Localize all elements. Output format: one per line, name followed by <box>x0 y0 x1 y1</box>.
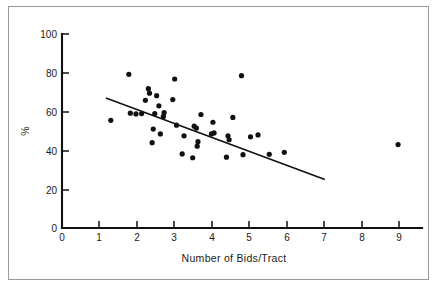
y-axis-tick-labels: 100 80 60 40 20 0 <box>40 29 57 234</box>
data-point <box>195 139 200 144</box>
scatter-plot: 100 80 60 40 20 0 % <box>9 7 428 279</box>
data-point <box>190 155 195 160</box>
y-axis-title: % <box>19 126 31 136</box>
data-point <box>126 72 131 77</box>
data-point-series <box>108 72 400 161</box>
x-axis-title: Number of Bids/Tract <box>182 252 287 264</box>
data-point <box>156 103 161 108</box>
figure-frame: 100 80 60 40 20 0 % <box>8 6 429 280</box>
data-point <box>158 131 163 136</box>
figure-container: 100 80 60 40 20 0 % <box>0 0 439 296</box>
x-tick-label: 6 <box>284 232 290 243</box>
data-point <box>267 152 272 157</box>
data-point <box>172 76 177 81</box>
data-point <box>150 140 155 145</box>
data-point <box>239 73 244 78</box>
trend-line <box>106 98 325 179</box>
y-tick-label: 20 <box>46 185 58 196</box>
data-point <box>248 134 253 139</box>
x-tick-label: 0 <box>59 232 65 243</box>
data-point <box>108 118 113 123</box>
y-tick-label: 80 <box>46 68 58 79</box>
y-tick-label: 0 <box>51 223 57 234</box>
data-point <box>210 120 215 125</box>
data-point <box>143 98 148 103</box>
data-point <box>133 111 138 116</box>
data-point <box>151 126 156 131</box>
y-tick-label: 40 <box>46 146 58 157</box>
data-point <box>181 133 186 138</box>
data-point <box>195 144 200 149</box>
x-tick-label: 9 <box>396 232 402 243</box>
data-point <box>230 115 235 120</box>
data-point <box>162 110 167 115</box>
data-point <box>198 112 203 117</box>
data-point <box>224 155 229 160</box>
data-point <box>227 137 232 142</box>
x-tick-label: 1 <box>96 232 102 243</box>
data-point <box>180 151 185 156</box>
data-point <box>147 91 152 96</box>
x-tick-label: 5 <box>246 232 252 243</box>
data-point <box>211 130 216 135</box>
data-point <box>128 111 133 116</box>
y-axis: 100 80 60 40 20 0 % <box>19 29 69 234</box>
data-point <box>240 152 245 157</box>
data-point <box>255 132 260 137</box>
data-point <box>194 125 199 130</box>
x-tick-label: 7 <box>321 232 327 243</box>
data-point <box>282 150 287 155</box>
x-tick-label: 8 <box>359 232 365 243</box>
y-tick-label: 60 <box>46 107 58 118</box>
data-point <box>395 142 400 147</box>
x-tick-label: 3 <box>171 232 177 243</box>
data-point <box>146 86 151 91</box>
y-tick-label: 100 <box>40 29 57 40</box>
x-tick-label: 2 <box>134 232 140 243</box>
x-tick-label: 4 <box>209 232 215 243</box>
data-point <box>170 97 175 102</box>
data-point <box>154 93 159 98</box>
x-axis: 0 1 2 3 4 5 6 7 8 9 Number of Bids/Tract <box>59 221 422 264</box>
x-axis-tick-labels: 0 1 2 3 4 5 6 7 8 9 <box>59 232 402 243</box>
